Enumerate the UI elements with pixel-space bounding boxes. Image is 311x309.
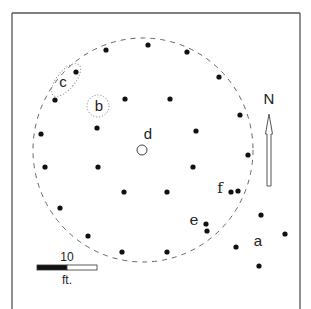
post-hole [145,42,150,47]
post-hole [52,97,57,102]
post-hole [164,189,169,194]
feature-label-d: d [144,125,152,142]
scale-unit-label: ft. [62,273,72,287]
post-hole [122,96,127,101]
post-hole [119,249,124,254]
scale-value-label: 10 [60,250,74,264]
post-hole [282,231,287,236]
post-hole [245,152,250,157]
post-hole [73,69,78,74]
post-hole [193,128,198,133]
site-plan-diagram: a b c d e f N 10 ft. [0,0,311,309]
post-hole [235,188,240,193]
north-arrow-icon [266,114,273,186]
post-hole [103,47,108,52]
north-label: N [264,90,275,107]
post-hole [85,233,90,238]
post-hole [42,164,47,169]
post-hole [237,112,242,117]
feature-label-e: e [190,211,199,229]
post-hole [216,74,221,79]
north-arrow: N [264,90,275,186]
post-hole [258,212,263,217]
scale-bar-white-segment [67,265,97,270]
post-hole [121,189,126,194]
post-hole [256,263,261,268]
post-hole [164,249,169,254]
feature-d-hearth [137,145,147,155]
feature-label-a: a [254,232,263,249]
feature-label-f: f [217,179,224,197]
post-hole [203,221,208,226]
feature-label-c: c [59,73,67,90]
post-hole [204,228,209,233]
post-hole [94,125,99,130]
post-hole [167,96,172,101]
post-holes [38,42,287,268]
post-hole [228,189,233,194]
post-hole [184,49,189,54]
scale-bar: 10 ft. [37,250,97,287]
scale-bar-black-segment [37,265,67,270]
post-hole [95,164,100,169]
post-hole [38,131,43,136]
post-hole [57,205,62,210]
feature-label-b: b [95,97,103,114]
post-hole [233,244,238,249]
post-hole [190,164,195,169]
